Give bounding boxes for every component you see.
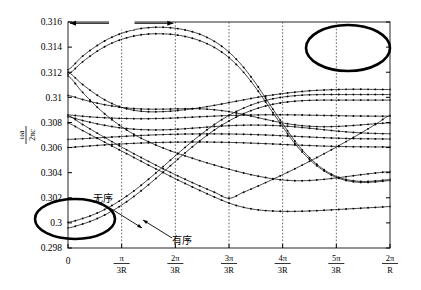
- curve-marker: [265, 210, 267, 212]
- curve-marker: [191, 37, 193, 39]
- curve-marker: [374, 133, 376, 135]
- curve-marker: [352, 94, 354, 96]
- curve-marker: [294, 100, 296, 102]
- curve-marker: [250, 80, 252, 82]
- curve-marker: [162, 166, 164, 168]
- ytick-label-5: 0.308: [41, 118, 63, 128]
- curve-marker: [170, 159, 172, 161]
- curve-marker: [111, 103, 113, 105]
- curve-marker: [272, 94, 274, 96]
- curve-marker: [367, 138, 369, 140]
- curve-line: [68, 72, 390, 112]
- curve-marker: [382, 89, 384, 91]
- curve-marker: [228, 133, 230, 135]
- curve-marker: [367, 123, 369, 125]
- curve-marker: [338, 99, 340, 101]
- curve-marker: [301, 127, 303, 129]
- curve-marker: [301, 100, 303, 102]
- curve-marker: [213, 126, 215, 128]
- curve-marker: [184, 183, 186, 185]
- curve-line: [68, 100, 390, 228]
- curve-marker: [352, 99, 354, 101]
- curve-marker: [96, 106, 98, 108]
- curve-marker: [74, 138, 76, 140]
- curve-marker: [206, 193, 208, 195]
- curve-marker: [191, 182, 193, 184]
- curve-marker: [301, 144, 303, 146]
- curve-marker: [162, 141, 164, 143]
- curve-marker: [104, 209, 106, 211]
- curve-marker: [279, 179, 281, 181]
- curve-marker: [323, 209, 325, 211]
- curve-marker: [89, 145, 91, 147]
- curve-marker: [338, 137, 340, 139]
- curve-marker: [316, 136, 318, 138]
- curve-marker: [170, 133, 172, 135]
- curve-marker: [279, 175, 281, 177]
- curve-marker: [301, 151, 303, 153]
- curve-marker: [265, 124, 267, 126]
- curve-marker: [331, 145, 333, 147]
- curve-marker: [82, 55, 84, 57]
- curve-marker: [199, 127, 201, 129]
- curve-marker: [272, 120, 274, 122]
- curve-marker: [162, 26, 164, 28]
- curve-marker: [155, 129, 157, 131]
- curve-marker: [221, 141, 223, 143]
- curve-marker: [360, 88, 362, 90]
- curve-marker: [177, 158, 179, 160]
- curve-marker: [323, 89, 325, 91]
- top-right-ellipse: [306, 25, 390, 71]
- curve-marker: [89, 121, 91, 123]
- curve-marker: [287, 114, 289, 116]
- curve-marker: [82, 223, 84, 225]
- curve-marker: [74, 68, 76, 70]
- curve-marker: [338, 115, 340, 117]
- curve-marker: [184, 128, 186, 130]
- curve-marker: [96, 116, 98, 118]
- curve-marker: [272, 103, 274, 105]
- curve-marker: [126, 201, 128, 203]
- curve-marker: [287, 210, 289, 212]
- curve-marker: [235, 170, 237, 172]
- curve-marker: [345, 131, 347, 133]
- curve-marker: [279, 97, 281, 99]
- curve-marker: [272, 114, 274, 116]
- curve-marker: [104, 214, 106, 216]
- curve-marker: [177, 110, 179, 112]
- curve-marker: [316, 210, 318, 212]
- curve-marker: [140, 184, 142, 186]
- curve-marker: [367, 94, 369, 96]
- curve-marker: [250, 110, 252, 112]
- curve-marker: [155, 144, 157, 146]
- curve-marker: [235, 114, 237, 116]
- curve-marker: [133, 195, 135, 197]
- curve-marker: [235, 100, 237, 102]
- bz-label-backing: [109, 18, 134, 30]
- curve-marker: [235, 64, 237, 66]
- curve-marker: [228, 197, 230, 199]
- curve-marker: [352, 136, 354, 138]
- curve-marker: [374, 181, 376, 183]
- curve-marker: [191, 116, 193, 118]
- curve-marker: [177, 179, 179, 181]
- xtick-label-5-den: 3R: [331, 265, 341, 275]
- curve-marker: [250, 142, 252, 144]
- curve-marker: [228, 202, 230, 204]
- curve-marker: [111, 105, 113, 107]
- curve-marker: [287, 92, 289, 94]
- curve-marker: [82, 120, 84, 122]
- curve-marker: [199, 116, 201, 118]
- bottom-left-ellipse: [35, 199, 115, 239]
- curve-marker: [331, 115, 333, 117]
- curve-marker: [184, 108, 186, 110]
- curve-marker: [82, 61, 84, 63]
- curve-marker: [184, 133, 186, 135]
- curve-marker: [155, 108, 157, 110]
- curve-marker: [170, 165, 172, 167]
- curve-marker: [199, 185, 201, 187]
- curve-marker: [382, 99, 384, 101]
- xtick-label-2-num: 2π: [171, 253, 180, 263]
- curve-marker: [155, 134, 157, 136]
- curve-marker: [352, 131, 354, 133]
